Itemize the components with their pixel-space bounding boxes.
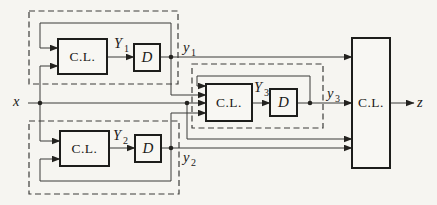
label-y3-subscript: 3 — [335, 93, 340, 104]
d2-delay-label: D — [142, 140, 154, 156]
junction-dot-y3 — [308, 101, 313, 106]
cl1-block-label: C.L. — [69, 49, 95, 64]
label-Y3-subscript: 3 — [264, 87, 269, 98]
label-y1-subscript: 1 — [191, 47, 196, 58]
label-Y1-subscript: 1 — [124, 43, 129, 54]
label-Y2-subscript: 2 — [123, 135, 128, 146]
junction-dot-y2 — [169, 146, 174, 151]
junction-dot-x — [38, 101, 43, 106]
label-y3: y — [325, 85, 334, 101]
label-x-input: x — [12, 93, 20, 109]
label-y2: y — [181, 149, 190, 165]
cl3-block-label: C.L. — [216, 95, 242, 110]
label-z-output: z — [416, 94, 423, 110]
label-y1: y — [181, 39, 190, 55]
d1-delay-label: D — [141, 49, 153, 65]
d3-delay-label: D — [277, 94, 289, 110]
junction-dot-x-branch — [185, 101, 190, 106]
junction-dot-y1 — [169, 55, 174, 60]
label-y2-subscript: 2 — [191, 157, 196, 168]
sequential-machine-block-diagram: C.L. D C.L. D C.L. D C.L. x z Y 1 y 1 Y … — [0, 0, 437, 205]
cl2-block-label: C.L. — [71, 141, 97, 156]
clz-output-block-label: C.L. — [358, 95, 384, 110]
